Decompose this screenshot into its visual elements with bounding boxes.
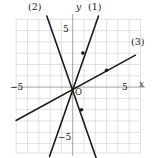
line-label-2: (2) — [28, 2, 41, 12]
y-axis-label: y — [76, 3, 81, 12]
point-on-line-1 — [81, 51, 85, 55]
x-tick-label-neg5: −5 — [10, 83, 23, 92]
line-label-3: (3) — [131, 37, 144, 47]
point-on-line-2 — [80, 108, 84, 112]
x-axis-label: x — [139, 80, 144, 89]
point-on-line-3 — [105, 68, 109, 72]
origin-label: O — [75, 88, 82, 97]
y-tick-label-5: 5 — [63, 25, 69, 34]
x-tick-label-5: 5 — [122, 83, 128, 92]
graph-canvas — [0, 0, 153, 158]
coordinate-plane-figure: (2) (1) (3) y x 5 −5 −5 5 O — [0, 0, 153, 158]
y-tick-label-neg5: −5 — [58, 133, 71, 142]
line-label-1: (1) — [88, 2, 101, 12]
line-1 — [50, 16, 99, 157]
